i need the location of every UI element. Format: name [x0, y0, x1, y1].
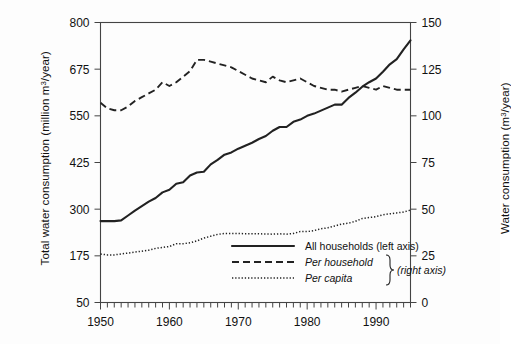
y-tick-label-right: 125 [422, 63, 442, 77]
y-tick-label-right: 25 [422, 249, 436, 263]
legend-label: Per household [305, 256, 374, 268]
y-tick-label-right: 150 [422, 16, 442, 30]
x-tick-label: 1990 [363, 315, 390, 329]
y-tick-label-left: 550 [69, 109, 89, 123]
y-tick-label-left: 175 [69, 249, 89, 263]
x-tick-label: 1960 [156, 315, 183, 329]
y-tick-label-left: 800 [69, 16, 89, 30]
legend-brace-note: (right axis) [397, 264, 446, 276]
y-tick-label-right: 100 [422, 109, 442, 123]
x-tick-label: 1970 [225, 315, 252, 329]
y-tick-label-right: 75 [422, 156, 436, 170]
y-tick-label-right: 50 [422, 203, 436, 217]
legend-brace [386, 255, 394, 285]
y-tick-label-left: 50 [76, 296, 90, 310]
y-tick-label-right: 0 [422, 296, 429, 310]
y-tick-label-left: 425 [69, 156, 89, 170]
y-tick-label-left: 300 [69, 203, 89, 217]
y-tick-label-left: 675 [69, 63, 89, 77]
y-axis-right-title: Water consumption (m3/year) [499, 18, 511, 298]
series-line-solid [101, 40, 411, 221]
x-axis-ticks: 19501960197019801990 [87, 303, 410, 329]
legend-label: All households (left axis) [305, 240, 419, 252]
data-series-layer [101, 40, 411, 254]
legend-label: Per capita [305, 272, 352, 284]
x-tick-label: 1950 [87, 315, 114, 329]
chart-legend: All households (left axis)Per householdP… [232, 240, 446, 285]
x-tick-label: 1980 [294, 315, 321, 329]
y-axis-left-ticks: 50175300425550675800 [69, 16, 100, 310]
